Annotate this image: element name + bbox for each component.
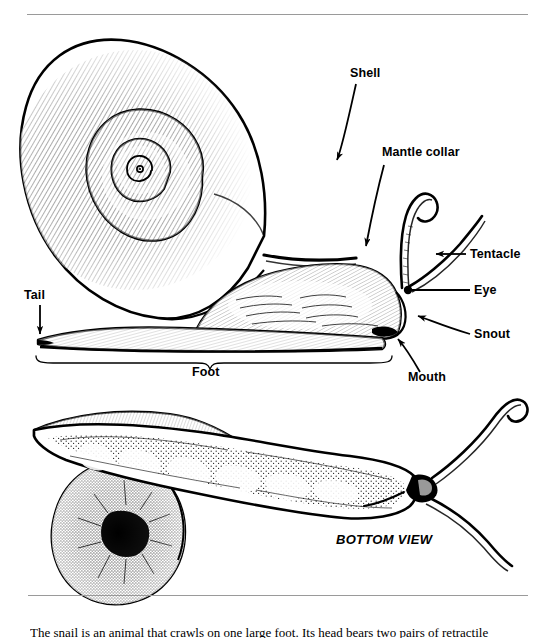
leader-snout [418,316,470,334]
side-view-group [20,40,485,372]
upper-tentacle [401,194,438,288]
label-tentacle: Tentacle [470,248,521,261]
label-tail: Tail [24,289,45,302]
label-foot: Foot [192,366,219,379]
eye-shape [404,286,412,294]
bottom-view-group [34,400,527,605]
leader-mantle-collar [366,165,384,246]
leader-mouth [398,339,420,372]
label-mouth: Mouth [408,371,446,384]
figure-root: Shell Mantle collar Tentacle Eye Snout M… [0,0,555,638]
snail-anatomy-illustration [0,0,555,638]
label-shell: Shell [350,67,380,80]
bottom-upper-tentacle [432,400,527,478]
mantle-collar-line [264,255,356,260]
label-snout: Snout [474,328,510,341]
bottom-rule [28,595,528,596]
label-mantle-collar: Mantle collar [382,146,460,159]
label-bottom-view: BOTTOM VIEW [336,533,432,546]
bottom-lower-tentacle [430,498,512,566]
shell-drawing [20,40,265,320]
label-eye: Eye [474,284,497,297]
page-caption: The snail is an animal that crawls on on… [30,624,530,638]
leader-shell [337,84,356,160]
